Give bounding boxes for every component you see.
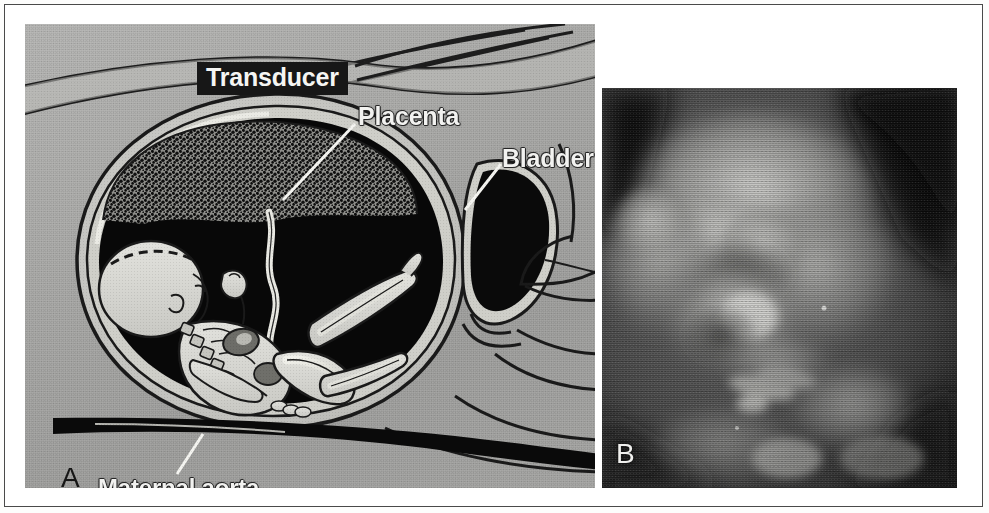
label-transducer-text: Transducer [206,63,339,91]
label-transducer: Transducer [197,62,348,95]
figure-root: Transducer Placenta Bladder Maternal aor… [0,0,989,513]
label-placenta: Placenta [358,104,459,129]
label-bladder: Bladder [502,146,594,171]
panel-a-caption-letter: A [61,464,79,488]
label-maternal-aorta: Maternal aorta [98,476,259,488]
panel-b-ultrasound: B [602,88,957,488]
panel-a-illustration: Transducer Placenta Bladder Maternal aor… [25,24,595,488]
panel-b-fetal-face-render [602,88,957,488]
panel-b-caption-letter: B [616,440,634,468]
